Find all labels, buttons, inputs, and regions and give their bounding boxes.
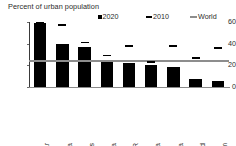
bar-vietnam bbox=[212, 81, 224, 88]
world-reference-line bbox=[29, 60, 229, 61]
x-tick-label-text: Vietnam bbox=[221, 143, 229, 146]
x-tick-label-vietnam: Vietnam bbox=[221, 143, 229, 146]
chart-container: Percent of urban population 2020 2010 Wo… bbox=[0, 0, 236, 146]
x-tick-label-indonesia: Indonesia bbox=[154, 143, 162, 146]
bar-myanmar bbox=[34, 23, 46, 87]
x-tick-label-text: Lao PDR bbox=[132, 143, 140, 146]
x-tick-label-china: China bbox=[110, 143, 118, 146]
marker-2010-cambodia bbox=[58, 24, 66, 26]
marker-2010-thailand bbox=[192, 57, 200, 59]
x-tick-label-text: China bbox=[110, 143, 118, 146]
x-tick-label-thailand: Thailand bbox=[199, 143, 207, 146]
marker-2010-vietnam bbox=[214, 47, 222, 49]
bar-philippines bbox=[78, 47, 90, 87]
x-tick-label-philippines: Philippines bbox=[88, 143, 96, 146]
x-tick-label-mongolia: Mongolia bbox=[177, 143, 185, 146]
marker-2010-indonesia bbox=[147, 61, 155, 63]
bar-lao-pdr bbox=[123, 63, 135, 87]
bar-indonesia bbox=[145, 65, 157, 87]
marker-2010-mongolia bbox=[169, 45, 177, 47]
legend-label-2020: 2020 bbox=[103, 13, 119, 21]
legend-item-2010: 2010 bbox=[146, 12, 169, 22]
x-tick-label-text: Indonesia bbox=[154, 143, 162, 146]
x-tick-label-cambodia: Cambodia bbox=[66, 143, 74, 146]
marker-2010-philippines bbox=[81, 42, 89, 44]
y-tick-mark-0 bbox=[27, 87, 29, 88]
x-tick-label-text: Mongolia bbox=[177, 143, 185, 146]
x-axis-labels: MyanmarCambodiaPhilippinesChinaLao PDRIn… bbox=[29, 89, 230, 145]
x-axis-line bbox=[29, 87, 230, 88]
legend-swatch-line-icon bbox=[190, 16, 197, 17]
bar-mongolia bbox=[167, 67, 179, 87]
plot-area bbox=[29, 22, 229, 87]
bar-cambodia bbox=[56, 44, 68, 87]
marker-2010-lao-pdr bbox=[125, 45, 133, 47]
chart-title: Percent of urban population bbox=[8, 2, 99, 11]
legend-label-2010: 2010 bbox=[153, 13, 169, 21]
legend-swatch-dash-icon bbox=[146, 16, 152, 18]
x-tick-label-lao-pdr: Lao PDR bbox=[132, 143, 140, 146]
bar-china bbox=[101, 61, 113, 87]
marker-2010-myanmar bbox=[36, 22, 44, 24]
x-tick-label-text: Thailand bbox=[199, 143, 207, 146]
x-tick-label-text: Philippines bbox=[88, 143, 96, 146]
legend-swatch-square-icon bbox=[98, 15, 102, 19]
x-tick-label-myanmar: Myanmar bbox=[43, 143, 51, 146]
legend-item-2020: 2020 bbox=[98, 12, 119, 22]
bar-thailand bbox=[189, 79, 201, 87]
x-tick-label-text: Myanmar bbox=[43, 143, 51, 146]
marker-2010-china bbox=[103, 55, 111, 57]
x-tick-label-text: Cambodia bbox=[66, 143, 74, 146]
